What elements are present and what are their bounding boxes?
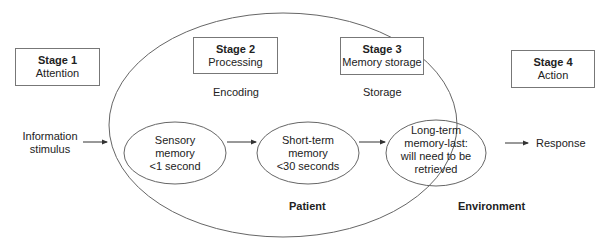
- stage-1-box: Stage 1 Attention: [15, 48, 100, 86]
- stage-3-subtitle: Memory storage: [341, 56, 423, 69]
- sensory-line-3: <1 second: [130, 160, 220, 173]
- stage-3-box: Stage 3 Memory storage: [340, 37, 424, 75]
- sensory-memory-node: Sensory memory <1 second: [130, 134, 220, 173]
- long-term-line-1: Long-term: [391, 124, 481, 137]
- long-term-line-4: retrieved: [391, 163, 481, 176]
- short-term-line-3: <30 seconds: [263, 160, 353, 173]
- input-line-2: stimulus: [18, 143, 82, 156]
- stage-2-subtitle: Processing: [194, 56, 277, 69]
- long-term-line-2: memory-last:: [391, 137, 481, 150]
- input-label: Information stimulus: [18, 130, 82, 156]
- encoding-label: Encoding: [213, 86, 259, 99]
- stage-1-title: Stage 1: [16, 54, 99, 67]
- stage-2-box: Stage 2 Processing: [193, 37, 278, 74]
- sensory-line-2: memory: [130, 147, 220, 160]
- long-term-memory-node: Long-term memory-last: will need to be r…: [391, 124, 481, 176]
- environment-label: Environment: [458, 200, 525, 213]
- stage-3-title: Stage 3: [341, 43, 423, 56]
- patient-label: Patient: [289, 200, 326, 213]
- short-term-line-2: memory: [263, 147, 353, 160]
- storage-label: Storage: [363, 86, 402, 99]
- stage-4-subtitle: Action: [512, 69, 594, 82]
- response-label: Response: [536, 137, 586, 150]
- short-term-line-1: Short-term: [263, 134, 353, 147]
- input-line-1: Information: [18, 130, 82, 143]
- sensory-line-1: Sensory: [130, 134, 220, 147]
- stage-4-box: Stage 4 Action: [511, 50, 595, 88]
- stage-2-title: Stage 2: [194, 43, 277, 56]
- stage-1-subtitle: Attention: [16, 67, 99, 80]
- short-term-memory-node: Short-term memory <30 seconds: [263, 134, 353, 173]
- stage-4-title: Stage 4: [512, 56, 594, 69]
- long-term-line-3: will need to be: [391, 150, 481, 163]
